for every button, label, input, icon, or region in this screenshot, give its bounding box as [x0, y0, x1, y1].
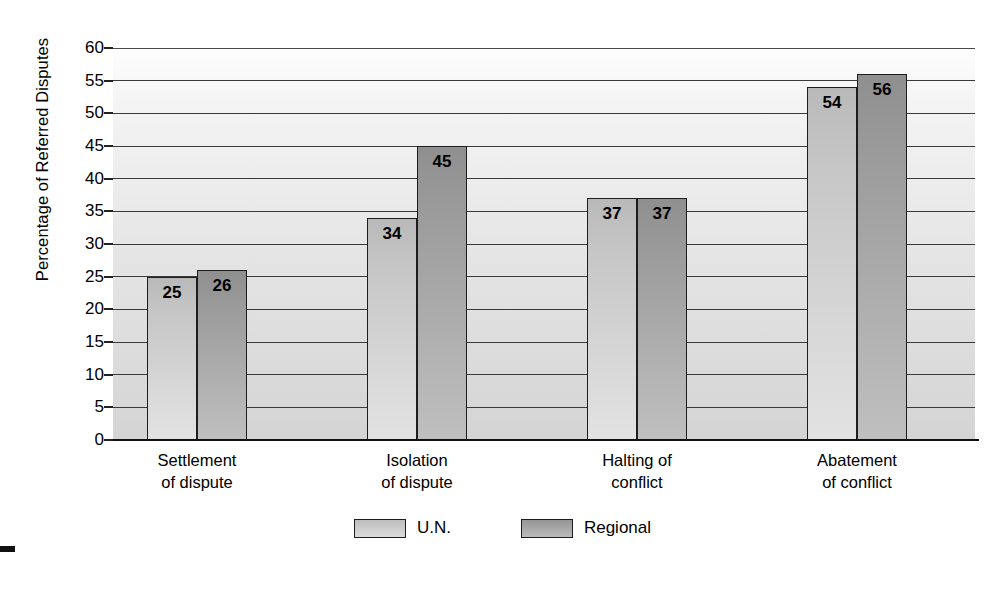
- bar-value-label: 37: [588, 205, 636, 224]
- y-tick-mark-15: [104, 341, 113, 343]
- bar-regional-3[interactable]: 37: [637, 198, 687, 440]
- y-tick-mark-25: [104, 276, 113, 278]
- plot-area: 2526344537375456: [113, 48, 975, 440]
- legend-label-un: U.N.: [417, 518, 451, 538]
- legend-item-un[interactable]: U.N.: [354, 518, 451, 538]
- bar-value-label: 45: [418, 153, 466, 172]
- category-label-line: of dispute: [317, 472, 517, 494]
- category-label-line: conflict: [537, 472, 737, 494]
- category-label-line: of dispute: [97, 472, 297, 494]
- gridline-60: [113, 48, 975, 49]
- y-tick-label-25: 25: [54, 268, 104, 285]
- y-tick-label-45: 45: [54, 137, 104, 154]
- y-tick-label-50: 50: [54, 104, 104, 121]
- category-label-line: Settlement: [97, 450, 297, 472]
- bar-un-1[interactable]: 25: [147, 277, 197, 440]
- y-tick-label-20: 20: [54, 300, 104, 317]
- y-tick-label-30: 30: [54, 235, 104, 252]
- y-tick-mark-5: [104, 406, 113, 408]
- y-tick-mark-60: [104, 47, 113, 49]
- bar-value-label: 34: [368, 225, 416, 244]
- bar-un-4[interactable]: 54: [807, 87, 857, 440]
- legend-swatch-un-icon: [354, 519, 406, 538]
- bar-un-2[interactable]: 34: [367, 218, 417, 440]
- y-tick-label-40: 40: [54, 170, 104, 187]
- y-tick-mark-40: [104, 178, 113, 180]
- y-tick-label-35: 35: [54, 202, 104, 219]
- y-tick-mark-45: [104, 145, 113, 147]
- bar-value-label: 25: [148, 284, 196, 303]
- y-tick-label-15: 15: [54, 333, 104, 350]
- y-tick-mark-55: [104, 80, 113, 82]
- y-tick-label-0: 0: [54, 431, 104, 448]
- bar-regional-1[interactable]: 26: [197, 270, 247, 440]
- scan-edge-artifact: [0, 546, 15, 552]
- y-tick-label-60: 60: [54, 39, 104, 56]
- y-tick-mark-0: [104, 439, 113, 441]
- category-label-2: Isolationof dispute: [317, 450, 517, 494]
- legend-swatch-regional-icon: [521, 519, 573, 538]
- chart-canvas: Percentage of Referred Disputes 05101520…: [0, 0, 1005, 603]
- y-axis-tick-labels: 051015202530354045505560: [46, 0, 104, 603]
- gridline-55: [113, 80, 975, 81]
- y-tick-label-5: 5: [54, 398, 104, 415]
- category-label-3: Halting ofconflict: [537, 450, 737, 494]
- bar-value-label: 56: [858, 81, 906, 100]
- bar-un-3[interactable]: 37: [587, 198, 637, 440]
- bar-value-label: 54: [808, 94, 856, 113]
- y-tick-label-55: 55: [54, 72, 104, 89]
- legend-label-regional: Regional: [584, 518, 651, 538]
- category-label-1: Settlementof dispute: [97, 450, 297, 494]
- y-tick-mark-20: [104, 308, 113, 310]
- y-tick-label-10: 10: [54, 366, 104, 383]
- chart-legend: U.N. Regional: [0, 518, 1005, 538]
- bar-value-label: 37: [638, 205, 686, 224]
- category-label-line: Isolation: [317, 450, 517, 472]
- bar-regional-2[interactable]: 45: [417, 146, 467, 440]
- x-axis-line: [113, 439, 979, 441]
- category-label-4: Abatementof conflict: [757, 450, 957, 494]
- y-tick-mark-10: [104, 374, 113, 376]
- legend-item-regional[interactable]: Regional: [521, 518, 651, 538]
- category-label-line: of conflict: [757, 472, 957, 494]
- category-label-line: Abatement: [757, 450, 957, 472]
- y-tick-mark-50: [104, 112, 113, 114]
- bar-regional-4[interactable]: 56: [857, 74, 907, 440]
- category-label-line: Halting of: [537, 450, 737, 472]
- y-tick-mark-30: [104, 243, 113, 245]
- y-tick-mark-35: [104, 210, 113, 212]
- bar-value-label: 26: [198, 277, 246, 296]
